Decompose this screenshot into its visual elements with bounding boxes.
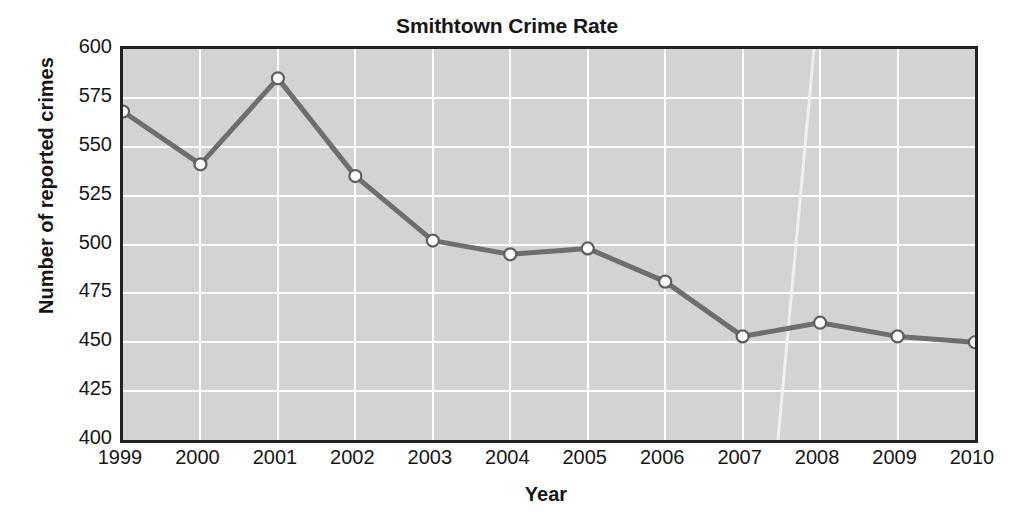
y-tick-label: 425: [50, 378, 112, 398]
data-point-marker: [582, 242, 594, 254]
chart-container: Smithtown Crime Rate 6005755505255004754…: [0, 0, 1014, 528]
data-point-marker: [272, 72, 284, 84]
x-axis-title: Year: [120, 483, 972, 506]
data-point-marker: [120, 106, 129, 118]
chart-title: Smithtown Crime Rate: [0, 14, 1014, 38]
series-polyline: [123, 78, 975, 342]
y-tick-label: 575: [50, 85, 112, 105]
data-point-marker: [504, 248, 516, 260]
y-tick-label: 600: [50, 36, 112, 56]
y-tick-label: 400: [50, 427, 112, 447]
data-point-marker: [194, 158, 206, 170]
data-series-line: [123, 49, 975, 440]
y-tick-label: 500: [50, 232, 112, 252]
data-point-marker: [892, 330, 904, 342]
data-point-marker: [659, 276, 671, 288]
y-tick-label: 525: [50, 183, 112, 203]
plot-area: [120, 46, 978, 443]
x-axis-ticks: 1999200020012002200320042005200620072008…: [120, 446, 972, 472]
data-point-marker: [814, 317, 826, 329]
y-tick-label: 475: [50, 280, 112, 300]
y-tick-label: 550: [50, 134, 112, 154]
data-point-marker: [427, 235, 439, 247]
data-point-marker: [737, 330, 749, 342]
y-tick-label: 450: [50, 329, 112, 349]
data-point-marker: [349, 170, 361, 182]
data-point-marker: [969, 336, 978, 348]
x-tick-label: 2010: [927, 446, 1014, 469]
y-axis-title: Number of reported crimes: [35, 36, 58, 336]
